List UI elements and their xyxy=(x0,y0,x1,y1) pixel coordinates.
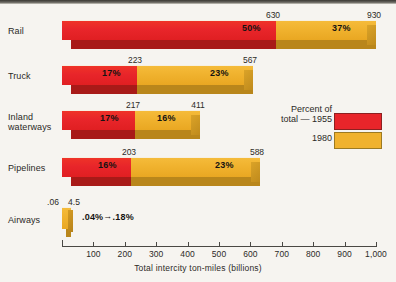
x-axis-tick-600 xyxy=(250,242,251,247)
value-label-truck-1955: 223 xyxy=(128,55,142,65)
pct-label-rail-1980: 37% xyxy=(332,23,351,33)
x-axis-tick-200 xyxy=(125,242,126,247)
x-axis-tick-100 xyxy=(93,242,94,247)
airways-transition-note: .04%→.18% xyxy=(82,212,134,222)
category-label-truck: Truck xyxy=(8,71,31,81)
value-label-pipelines-1955: 203 xyxy=(122,147,136,157)
bar-shadow-rail-1955 xyxy=(71,40,276,49)
value-label-rail-1980: 930 xyxy=(367,10,381,20)
value-label-airways-1955: .06 xyxy=(47,197,59,207)
x-axis-tick-800 xyxy=(313,242,314,247)
category-label-rail-line1: Rail xyxy=(8,26,24,36)
airways-pct-1980: .18% xyxy=(113,212,134,222)
legend-label-1955-line1: Percent of xyxy=(281,104,332,114)
legend-label-1980: 1980 xyxy=(312,133,332,143)
legend-swatch-1980 xyxy=(334,132,382,149)
legend-swatch-1955 xyxy=(334,113,382,130)
x-axis-tick-1000 xyxy=(376,242,377,247)
category-label-inland-line2: waterways xyxy=(8,122,51,132)
bar-side-airways-1980 xyxy=(68,210,73,232)
pct-label-truck-1955: 17% xyxy=(102,68,121,78)
x-axis-tick-500 xyxy=(219,242,220,247)
bar-group-rail: 50% 37% xyxy=(62,20,382,42)
pct-label-inland-1955: 17% xyxy=(100,113,119,123)
x-axis-tick-label-600: 600 xyxy=(243,249,257,259)
value-label-airways-1980: 4.5 xyxy=(68,197,80,207)
bar-side-truck-1980 xyxy=(244,70,253,90)
x-axis-tick-label-800: 800 xyxy=(306,249,320,259)
arrow-right-icon: → xyxy=(103,211,112,221)
category-label-inland-line1: Inland xyxy=(8,112,51,122)
x-axis-tick-label-200: 200 xyxy=(118,249,132,259)
bar-group-airways: .04%→.18% xyxy=(62,207,182,229)
pct-label-rail-1955: 50% xyxy=(242,23,261,33)
bar-shadow-inland-1955 xyxy=(71,130,135,139)
value-label-rail-1955: 630 xyxy=(266,10,280,20)
bar-group-pipelines: 16% 23% xyxy=(62,157,272,179)
x-axis-title: Total intercity ton-miles (billions) xyxy=(0,263,396,273)
category-label-rail: Rail xyxy=(8,26,24,36)
category-label-airways-line1: Airways xyxy=(8,215,40,225)
value-label-inland-1980: 411 xyxy=(191,100,205,110)
bar-segment-inland-1955 xyxy=(62,110,135,130)
legend: Percent of total — 1955 1980 xyxy=(256,104,392,151)
x-axis-tick-700 xyxy=(282,242,283,247)
airways-pct-1955: .04% xyxy=(82,212,103,222)
legend-row-1955: Percent of total — 1955 xyxy=(256,104,392,123)
x-axis-tick-300 xyxy=(156,242,157,247)
x-axis-tick-label-500: 500 xyxy=(212,249,226,259)
bar-side-inland-1980 xyxy=(191,115,200,135)
legend-label-1955: Percent of total — 1955 xyxy=(281,104,332,124)
bar-segment-pipelines-1955 xyxy=(62,157,131,177)
value-label-truck-1980: 567 xyxy=(243,55,257,65)
bar-shadow-pipelines-1955 xyxy=(71,177,131,186)
legend-label-1955-line2: total — 1955 xyxy=(281,114,332,124)
x-axis-tick-400 xyxy=(188,242,189,247)
bar-side-pipelines-1980 xyxy=(251,162,260,182)
legend-row-1980: 1980 xyxy=(256,132,392,151)
category-label-pipelines: Pipelines xyxy=(8,163,45,173)
bar-group-inland-waterways: 17% 16% xyxy=(62,110,212,132)
x-axis-tick-label-900: 900 xyxy=(337,249,351,259)
category-label-truck-line1: Truck xyxy=(8,71,31,81)
bar-shadow-truck-1955 xyxy=(71,85,137,94)
pct-label-truck-1980: 23% xyxy=(210,68,229,78)
x-axis-tick-label-1000: 1,000 xyxy=(365,249,387,259)
value-label-inland-1955: 217 xyxy=(126,100,140,110)
category-label-airways: Airways xyxy=(8,215,40,225)
x-axis-tick-label-700: 700 xyxy=(275,249,289,259)
x-axis-tick-label-400: 400 xyxy=(180,249,194,259)
chart-container: Rail 630 930 50% 37% Truck 223 567 17% 2… xyxy=(0,0,396,282)
pct-label-pipelines-1980: 23% xyxy=(215,160,234,170)
category-label-inland-waterways: Inland waterways xyxy=(8,112,51,132)
bar-group-truck: 17% 23% xyxy=(62,65,262,87)
bar-side-rail-1980 xyxy=(367,25,376,45)
x-axis-tick-label-100: 100 xyxy=(86,249,100,259)
x-axis-tick-label-300: 300 xyxy=(149,249,163,259)
pct-label-pipelines-1955: 16% xyxy=(98,160,117,170)
pct-label-inland-1980: 16% xyxy=(157,113,176,123)
x-axis-tick-900 xyxy=(345,242,346,247)
category-label-pipelines-line1: Pipelines xyxy=(8,163,45,173)
bar-segment-truck-1955 xyxy=(62,65,137,85)
